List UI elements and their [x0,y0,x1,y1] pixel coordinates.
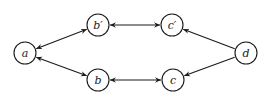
node-label: c′ [168,19,177,32]
node-label: b′ [93,19,103,32]
node-label: a [22,47,29,60]
node-b: b [87,69,109,91]
node-b-prime: b′ [87,14,109,36]
edge-d-c [184,57,234,76]
node-a: a [14,42,36,64]
edge-a-bp [36,29,87,48]
node-label: b [94,74,101,87]
edge-a-b [36,57,86,76]
edges-layer [36,25,235,80]
edge-d-cp [183,29,235,49]
graph-diagram: a b′ c′ b c d [0,0,272,100]
node-label: c [170,74,176,87]
node-label: d [242,47,249,60]
node-d: d [235,42,257,64]
node-c: c [162,69,184,91]
node-c-prime: c′ [161,14,183,36]
